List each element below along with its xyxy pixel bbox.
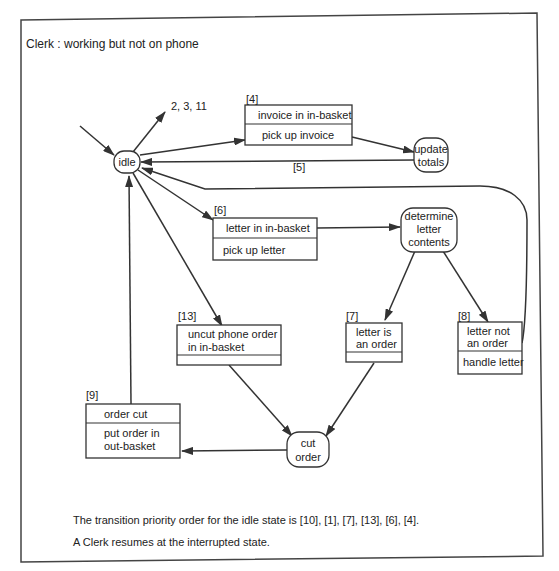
transition-13-id: [13] [178,310,196,322]
state-update-totals: update totals [414,138,448,172]
diagram-frame [21,13,543,562]
transition-4-event: invoice in in-basket [258,109,352,121]
transition-8-action: handle letter [463,356,524,368]
transition-9-action-line-1: put order in [104,427,160,439]
external-transition-arrow [133,112,165,152]
state-idle-label: idle [118,156,135,168]
transition-5-id: [5] [293,161,305,173]
arrow-idle-to-t6 [138,170,213,220]
arrow-update-totals-to-idle [141,160,414,162]
transition-7-event-line-2: an order [356,338,397,350]
cut-order-line-1: cut [301,437,316,449]
transition-7: [7] letter is an order [346,310,402,362]
cut-order-line-2: order [295,451,321,463]
arrow-cut-order-to-t9 [182,450,287,451]
arrow-determine-to-t7 [385,251,415,320]
arrow-t7-to-cut-order [326,363,374,436]
determine-line-2: letter [417,223,442,235]
transition-8-event-line-2: an order [467,337,508,349]
transition-8: [8] letter not an order handle letter [458,310,524,374]
transition-4-id: [4] [246,93,258,105]
transition-7-id: [7] [346,310,358,322]
transition-7-event-line-1: letter is [356,326,392,338]
priority-note: The transition priority order for the id… [73,514,419,526]
update-totals-line-1: update [414,143,448,155]
diagram-title: Clerk : working but not on phone [26,37,199,51]
transition-6-action: pick up letter [223,244,286,256]
transition-9-event: order cut [104,408,147,420]
arrow-t6-to-determine [317,227,400,228]
determine-line-1: determine [405,210,454,222]
transition-8-event-line-1: letter not [467,325,510,337]
arrow-idle-to-t4 [140,140,245,155]
transition-13-event-line-1: uncut phone order [188,328,278,340]
transition-13-event-line-2: in in-basket [188,341,244,353]
transition-9: [9] order cut put order in out-basket [86,389,180,458]
state-diagram: Clerk : working but not on phone 2, 3 [0,0,559,571]
state-determine-letter-contents: determine letter contents [401,208,457,252]
arrow-t13-to-cut-order [229,365,292,436]
transition-13: [13] uncut phone order in in-basket [177,310,281,365]
determine-line-3: contents [408,236,450,248]
update-totals-line-2: totals [418,156,445,168]
arrow-t4-to-update-totals [352,137,414,152]
external-transitions-label: 2, 3, 11 [171,100,207,112]
transition-4: [4] invoice in in-basket pick up invoice [245,93,352,145]
transition-9-id: [9] [86,389,98,401]
initial-transition-arrow [80,126,114,155]
transition-8-id: [8] [458,310,470,322]
state-cut-order: cut order [287,432,329,467]
resume-note: A Clerk resumes at the interrupted state… [73,536,270,548]
state-idle: idle [114,151,140,173]
transition-6-id: [6] [214,204,226,216]
transition-9-action-line-2: out-basket [104,440,155,452]
transition-4-action: pick up invoice [262,129,334,141]
transition-6-event: letter in in-basket [226,222,310,234]
arrow-t9-to-idle [129,176,131,404]
transition-6: [6] letter in in-basket pick up letter [213,204,317,260]
